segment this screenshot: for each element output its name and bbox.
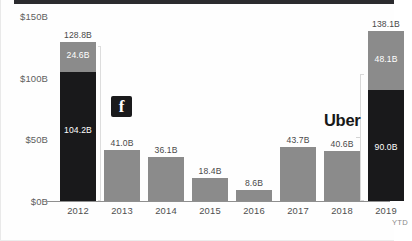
bar-2013[interactable]: 41.0B bbox=[104, 150, 140, 201]
bracket-2019 bbox=[360, 74, 364, 201]
x-axis: 2012 2013 2014 2015 2016 2017 2018 2019 … bbox=[52, 205, 390, 235]
bar-2019-segment-headline: 90.0B bbox=[368, 90, 404, 201]
x-tick-label-2015: 2015 bbox=[192, 205, 228, 216]
bar-2012-total-label: 128.8B bbox=[50, 30, 106, 40]
bar-2018-segment-other bbox=[324, 151, 360, 201]
bar-2016[interactable]: 8.6B bbox=[236, 190, 272, 201]
bar-2017[interactable]: 43.7B bbox=[280, 147, 316, 201]
page-top-strip bbox=[14, 0, 394, 4]
y-axis: $150B $100B $50B $0B bbox=[0, 16, 50, 201]
bar-2014-segment-other bbox=[148, 157, 184, 202]
bar-2015[interactable]: 18.4B bbox=[192, 178, 228, 201]
x-tick-label-2014: 2014 bbox=[148, 205, 184, 216]
x-tick-label-2012: 2012 bbox=[60, 205, 96, 216]
x-tick-label-2013: 2013 bbox=[104, 205, 140, 216]
bar-2016-total-label: 8.6B bbox=[226, 178, 282, 188]
y-tick-label-150: $150B bbox=[20, 11, 48, 22]
x-tick-label-2019: 2019 bbox=[368, 205, 404, 216]
bar-2015-segment-other bbox=[192, 178, 228, 201]
uber-wordmark: Uber bbox=[324, 111, 360, 130]
bar-2019-segment-other: 48.1B bbox=[368, 31, 404, 90]
x-tick-label-2016: 2016 bbox=[236, 205, 272, 216]
plot-area: 24.6B 104.2B 128.8B 41.0B 36.1B 18.4B 8.… bbox=[52, 16, 390, 201]
x-tick-label-2018: 2018 bbox=[324, 205, 360, 216]
bar-2013-segment-other bbox=[104, 150, 140, 201]
bar-2019[interactable]: 48.1B 90.0B 138.1B bbox=[368, 31, 404, 201]
bar-2012-other-label: 24.6B bbox=[60, 50, 96, 60]
bar-2012-segment-other: 24.6B bbox=[60, 42, 96, 72]
bar-2016-segment-other bbox=[236, 190, 272, 201]
bar-2015-total-label: 18.4B bbox=[182, 166, 238, 176]
facebook-logo: f bbox=[111, 96, 132, 117]
bar-2012[interactable]: 24.6B 104.2B 128.8B bbox=[60, 42, 96, 201]
bar-2012-segment-headline: 104.2B bbox=[60, 72, 96, 201]
x-axis-baseline bbox=[46, 201, 390, 202]
bar-2012-headline-label: 104.2B bbox=[60, 125, 96, 135]
bar-2017-segment-other bbox=[280, 147, 316, 201]
y-tick-label-100: $100B bbox=[20, 72, 48, 83]
x-tick-sublabel-ytd: YTD bbox=[392, 218, 408, 227]
bar-2014-total-label: 36.1B bbox=[138, 145, 194, 155]
bar-2019-headline-label: 90.0B bbox=[368, 142, 404, 152]
bracket-2012 bbox=[98, 46, 101, 201]
bar-2018[interactable]: 40.6B bbox=[324, 151, 360, 201]
y-tick-label-50: $50B bbox=[25, 134, 48, 145]
bar-2014[interactable]: 36.1B bbox=[148, 157, 184, 202]
bar-2019-total-label: 138.1B bbox=[358, 19, 412, 29]
facebook-logo-glyph: f bbox=[111, 98, 132, 115]
x-tick-label-2017: 2017 bbox=[280, 205, 316, 216]
bracket-2019-tick bbox=[356, 137, 360, 138]
bar-2019-other-label: 48.1B bbox=[368, 54, 404, 64]
